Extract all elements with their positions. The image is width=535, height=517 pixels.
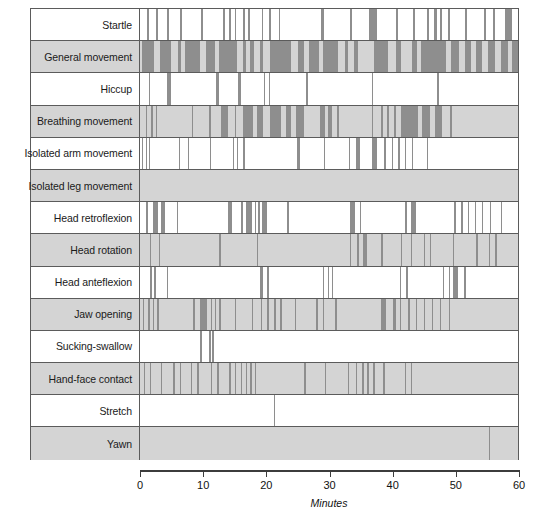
behaviour-row: Head rotation xyxy=(31,234,518,266)
x-axis-tick-label: 20 xyxy=(260,479,272,491)
behaviour-row-label: Startle xyxy=(31,9,140,40)
event-bar xyxy=(229,9,231,40)
behaviour-row-label: Isolated arm movement xyxy=(31,138,140,169)
event-bar xyxy=(241,363,242,394)
event-bar xyxy=(257,234,258,265)
event-bar xyxy=(505,9,512,40)
event-bar xyxy=(372,73,373,104)
event-bar xyxy=(257,106,263,137)
event-bar xyxy=(255,202,256,233)
event-bar xyxy=(316,299,317,330)
event-bar xyxy=(356,363,357,394)
event-bar xyxy=(321,9,324,40)
event-bar xyxy=(246,202,252,233)
event-bar xyxy=(306,73,307,104)
behaviour-row: Isolated arm movement xyxy=(31,138,518,170)
event-bar xyxy=(258,202,259,233)
event-bar xyxy=(260,267,264,298)
event-bar xyxy=(191,363,192,394)
event-bar xyxy=(464,267,465,298)
event-bar xyxy=(394,106,396,137)
event-bar xyxy=(489,427,490,459)
event-bar xyxy=(424,299,425,330)
event-bar xyxy=(362,363,363,394)
behaviour-row-label: Sucking-swallow xyxy=(31,331,140,362)
event-bar xyxy=(328,106,331,137)
x-axis: 0102030405060 Minutes xyxy=(0,470,535,517)
event-bar xyxy=(465,41,471,72)
event-bar xyxy=(427,138,428,169)
event-bar xyxy=(148,299,150,330)
event-bar xyxy=(405,363,406,394)
event-bar xyxy=(482,202,483,233)
event-bar xyxy=(381,299,386,330)
event-bar xyxy=(453,267,458,298)
event-bar xyxy=(465,9,467,40)
event-bar xyxy=(173,363,174,394)
event-bar xyxy=(435,106,443,137)
event-bar xyxy=(150,267,152,298)
behaviour-row: Breathing movement xyxy=(31,106,518,138)
event-bar xyxy=(179,138,180,169)
event-bar xyxy=(440,9,442,40)
event-bar xyxy=(188,138,189,169)
event-bar xyxy=(412,138,413,169)
event-bar xyxy=(178,41,181,72)
event-bar xyxy=(400,267,401,298)
event-bar xyxy=(372,106,373,137)
behaviour-row: Head anteflexion xyxy=(31,267,518,299)
x-axis-tick-label: 40 xyxy=(387,479,399,491)
event-bar xyxy=(416,299,417,330)
event-bar xyxy=(405,202,408,233)
event-bar xyxy=(209,106,211,137)
event-bar xyxy=(357,234,358,265)
event-bar xyxy=(167,267,168,298)
event-bar xyxy=(454,202,455,233)
event-bar xyxy=(209,331,210,362)
event-bar xyxy=(216,73,220,104)
event-bar xyxy=(396,9,398,40)
event-bar xyxy=(434,9,437,40)
event-bar xyxy=(250,363,251,394)
event-bar xyxy=(237,138,238,169)
event-bar xyxy=(192,106,193,137)
event-bar xyxy=(149,138,150,169)
behaviour-row: Isolated leg movement xyxy=(31,170,518,202)
event-bar xyxy=(167,9,169,40)
behaviour-event-track xyxy=(140,427,518,459)
event-bar xyxy=(279,9,281,40)
event-bar xyxy=(449,267,450,298)
behaviour-row-label: Isolated leg movement xyxy=(31,170,140,201)
event-bar xyxy=(323,267,324,298)
event-bar xyxy=(495,234,496,265)
event-bar xyxy=(374,41,388,72)
behaviour-event-track xyxy=(140,267,518,298)
event-bar xyxy=(345,41,348,72)
behaviour-event-track xyxy=(140,202,518,233)
event-bar xyxy=(432,299,433,330)
x-axis-tick xyxy=(140,470,141,477)
behaviour-row-label: Yawn xyxy=(31,427,140,459)
behaviour-event-track xyxy=(140,9,518,40)
event-bar xyxy=(354,41,358,72)
event-bar xyxy=(252,299,253,330)
behaviour-event-track xyxy=(140,170,518,201)
x-axis-tick-label: 10 xyxy=(197,479,209,491)
event-bar xyxy=(448,9,450,40)
event-bar xyxy=(235,299,236,330)
event-bar xyxy=(476,234,477,265)
behaviour-row: General movement xyxy=(31,41,518,73)
event-bar xyxy=(461,202,462,233)
event-bar xyxy=(412,41,417,72)
behaviour-row-label: Breathing movement xyxy=(31,106,140,137)
event-bar xyxy=(384,138,385,169)
event-bar xyxy=(241,202,243,233)
event-bar xyxy=(146,106,147,137)
event-bar xyxy=(337,106,340,137)
event-bar xyxy=(451,41,459,72)
event-bar xyxy=(427,9,429,40)
event-bar xyxy=(298,41,304,72)
event-bar xyxy=(350,9,352,40)
event-bar xyxy=(408,299,409,330)
event-bar xyxy=(219,234,220,265)
